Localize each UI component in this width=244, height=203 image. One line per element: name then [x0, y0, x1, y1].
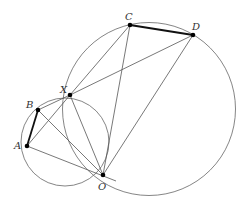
- segment-DO: [103, 35, 193, 175]
- point-X: [68, 93, 73, 98]
- label-C: C: [125, 11, 133, 22]
- label-O: O: [98, 181, 106, 192]
- point-C: [128, 23, 133, 28]
- segment-BO: [38, 110, 103, 175]
- point-B: [36, 108, 41, 113]
- label-B: B: [25, 99, 33, 110]
- segment-XO: [70, 95, 103, 175]
- segment-CO: [103, 25, 130, 175]
- segment-XC: [70, 25, 130, 95]
- label-D: D: [191, 21, 200, 32]
- label-A: A: [13, 140, 21, 151]
- segment-AB: [27, 110, 38, 146]
- point-D: [191, 33, 196, 38]
- large-circle: [63, 23, 236, 196]
- point-A: [25, 144, 30, 149]
- segment-XB: [38, 95, 70, 110]
- label-X: X: [59, 84, 68, 95]
- geometry-diagram: A B X O C D: [0, 0, 244, 203]
- segment-XD: [70, 35, 193, 95]
- point-O: [101, 173, 106, 178]
